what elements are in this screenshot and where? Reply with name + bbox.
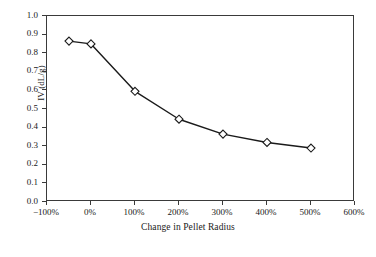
data-markers — [65, 37, 315, 152]
data-line — [69, 41, 311, 148]
y-tick-label: 0.5 — [14, 104, 38, 113]
data-series-iv — [47, 16, 355, 202]
y-tick-label: 0.8 — [14, 48, 38, 57]
y-tick-label: 0.1 — [14, 178, 38, 187]
y-tick-label: 0.3 — [14, 141, 38, 150]
data-point-marker — [263, 138, 271, 146]
x-tick-label: 300% — [197, 208, 247, 217]
data-point-marker — [175, 115, 183, 123]
y-tick-label: 1.0 — [14, 11, 38, 20]
y-tick-label: 0.4 — [14, 122, 38, 131]
x-axis-label: Change in Pellet Radius — [0, 222, 376, 233]
y-tick-label: 0.7 — [14, 66, 38, 75]
chart-figure: IV (dL/g) 0.00.10.20.30.40.50.60.70.80.9… — [0, 0, 376, 257]
x-tick-label: 500% — [285, 208, 335, 217]
x-tick-label: 200% — [153, 208, 203, 217]
data-point-marker — [219, 130, 227, 138]
plot-area — [46, 15, 354, 201]
x-tick-label: 600% — [329, 208, 376, 217]
y-tick-label: 0.6 — [14, 85, 38, 94]
x-tick-label: −100% — [21, 208, 71, 217]
y-tick-label: 0.2 — [14, 159, 38, 168]
y-tick-label: 0.9 — [14, 29, 38, 38]
x-tick-label: 0% — [65, 208, 115, 217]
data-point-marker — [307, 144, 315, 152]
x-tick-label: 100% — [109, 208, 159, 217]
data-point-marker — [65, 37, 73, 45]
y-tick-label: 0.0 — [14, 197, 38, 206]
x-tick-label: 400% — [241, 208, 291, 217]
